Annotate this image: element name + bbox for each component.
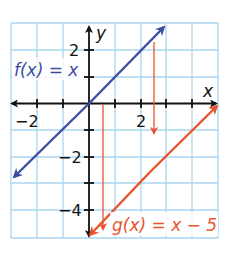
tick-label-x-neg2: −2 — [15, 112, 39, 131]
f-label: f(x) = x — [14, 60, 79, 80]
y-axis-label: y — [95, 23, 107, 43]
shift-arrows — [103, 42, 154, 229]
line-g-upper — [150, 106, 217, 172]
tick-label-y-neg4: −4 — [58, 201, 82, 220]
tick-label-x-2: 2 — [136, 112, 146, 131]
coordinate-plane: f(x) = x g(x) = x − 5 x y −2 2 2 −2 −4 — [0, 0, 229, 256]
grid — [11, 23, 218, 238]
tick-label-y-neg2: −2 — [58, 148, 82, 167]
g-label: g(x) = x − 5 — [112, 215, 217, 235]
tick-label-y-2: 2 — [69, 41, 79, 60]
x-axis-label: x — [202, 81, 214, 101]
